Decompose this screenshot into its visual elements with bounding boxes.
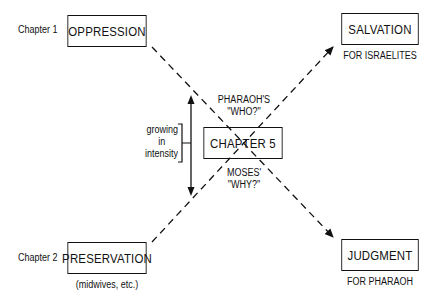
- pharaoh-who-line1: PHARAOH'S: [217, 94, 271, 106]
- growing-intensity-label: growing in intensity: [137, 124, 178, 160]
- preservation-subtitle: (midwives, etc.): [62, 279, 152, 290]
- moses-why-line2: "WHY?": [217, 179, 271, 191]
- chapter1-label: Chapter 1: [18, 24, 58, 35]
- chapter5-box: CHAPTER 5: [203, 127, 282, 159]
- arrowhead-up-icon: [188, 95, 195, 104]
- intensity-line1: growing: [137, 124, 178, 136]
- oppression-box: OPPRESSION: [67, 15, 146, 47]
- salvation-subtitle: FOR ISRAELITES: [335, 50, 425, 61]
- judgment-box: JUDGMENT: [341, 239, 418, 271]
- chapter2-label: Chapter 2: [18, 252, 58, 263]
- salvation-box: SALVATION: [341, 13, 418, 45]
- intensity-bracket: [178, 124, 191, 162]
- preservation-box: PRESERVATION: [67, 242, 146, 274]
- intensity-line3: intensity: [137, 148, 178, 160]
- judgment-subtitle: FOR PHARAOH: [335, 276, 425, 287]
- moses-why-line1: MOSES': [217, 167, 271, 179]
- pharaoh-who-label: PHARAOH'S "WHO?": [217, 94, 271, 118]
- moses-why-label: MOSES' "WHY?": [217, 167, 271, 191]
- pharaoh-who-line2: "WHO?": [217, 106, 271, 118]
- arrowhead-down-icon: [188, 187, 195, 196]
- intensity-line2: in: [137, 136, 178, 148]
